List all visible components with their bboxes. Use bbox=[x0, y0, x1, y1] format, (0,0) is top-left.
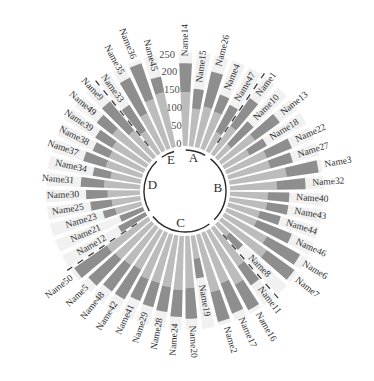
category-label-Name28: Name28 bbox=[149, 317, 165, 351]
category-label-Name24: Name24 bbox=[168, 323, 180, 356]
category-label-Name7: Name7 bbox=[294, 275, 322, 300]
bar-Name20-outer bbox=[185, 288, 197, 319]
bar-Name25-outer bbox=[90, 199, 113, 210]
group-letter-D: D bbox=[148, 177, 157, 192]
group-letter-C: C bbox=[176, 215, 185, 230]
bar-Name43-outer bbox=[266, 202, 289, 214]
group-letter-B: B bbox=[214, 180, 223, 195]
bar-Name31-outer bbox=[81, 177, 105, 188]
category-label-Name16: Name16 bbox=[254, 310, 279, 343]
radial-axis-tick-50: 50 bbox=[171, 120, 182, 131]
bar-Name30-outer bbox=[86, 190, 108, 199]
bar-Name23-outer bbox=[103, 208, 117, 219]
bar-Name30-inner bbox=[108, 190, 141, 197]
bar-Name34-outer bbox=[93, 167, 112, 179]
category-label-Name14: Name14 bbox=[180, 24, 190, 56]
radial-axis-tick-0: 0 bbox=[176, 138, 181, 149]
radial-axis-tick-200: 200 bbox=[162, 66, 178, 77]
radial-axis-tick-150: 150 bbox=[164, 84, 180, 95]
radial-stacked-bar-chart: Name14Name15Name26Name4Name47Name1Name10… bbox=[0, 0, 374, 381]
bar-Name19-outer bbox=[194, 258, 204, 279]
bar-Name14-outer bbox=[179, 63, 192, 92]
radial-axis-tick-100: 100 bbox=[166, 102, 182, 113]
bar-Name40-outer bbox=[267, 192, 289, 202]
category-label-Name20: Name20 bbox=[188, 325, 200, 358]
radial-axis-tick-250: 250 bbox=[159, 49, 175, 60]
category-label-Name40: Name40 bbox=[296, 192, 329, 204]
category-label-Name17: Name17 bbox=[237, 315, 259, 349]
category-label-Name2: Name2 bbox=[222, 325, 240, 354]
group-letter-E: E bbox=[167, 152, 175, 167]
bar-Name14-inner bbox=[181, 92, 191, 146]
category-label-Name36: Name36 bbox=[117, 27, 138, 61]
bar-Name15-outer bbox=[192, 89, 204, 110]
category-label-Name3: Name3 bbox=[324, 154, 353, 169]
bar-Name45-outer bbox=[150, 76, 164, 94]
category-label-Name32: Name32 bbox=[312, 175, 345, 187]
bar-Name32-outer bbox=[276, 178, 305, 190]
category-label-Name30: Name30 bbox=[47, 189, 80, 200]
group-letter-A: A bbox=[189, 150, 199, 165]
bar-Name28-outer bbox=[156, 285, 171, 312]
bar-Name24-outer bbox=[170, 289, 182, 317]
radial-chart-figure: Name14Name15Name26Name4Name47Name1Name10… bbox=[0, 0, 374, 381]
category-label-Name45: Name45 bbox=[142, 38, 160, 72]
category-label-Name26: Name26 bbox=[213, 33, 231, 67]
